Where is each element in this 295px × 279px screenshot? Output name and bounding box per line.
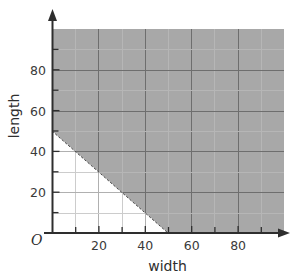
x-tick-label-80: 80 [230,238,246,253]
y-tick-label-20: 20 [18,185,46,200]
y-tick-marks [53,49,60,212]
x-axis-title: width [0,258,295,274]
x-tick-label-60: 60 [184,238,200,253]
y-axis-title: length [6,86,22,146]
x-tick-marks [76,226,262,233]
y-tick-label-80: 80 [18,62,46,77]
x-tick-label-20: 20 [91,238,107,253]
origin-label: O [31,232,42,248]
x-axis-arrow-icon [278,229,290,238]
inequality-graph-figure: 20 40 60 80 20 40 60 80 width length O [0,0,295,279]
y-tick-label-40: 40 [18,144,46,159]
x-tick-label-40: 40 [137,238,153,253]
y-tick-label-60: 60 [18,103,46,118]
y-axis-arrow-icon [48,9,57,21]
